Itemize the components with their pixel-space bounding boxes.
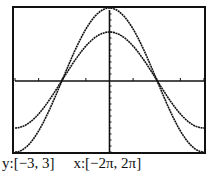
- window-caption: y:[−3, 3] x:[−2π, 2π]: [2, 155, 141, 172]
- graph-plot: [0, 0, 217, 180]
- axes: [15, 8, 204, 152]
- x-range-label: x:[−2π, 2π]: [73, 155, 141, 171]
- y-range-label: y:[−3, 3]: [2, 155, 55, 171]
